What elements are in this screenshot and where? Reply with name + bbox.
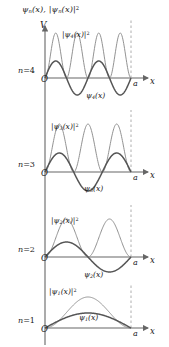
level-label-n4: n=4 bbox=[18, 66, 35, 75]
figure-axis-title: ψn(x), |ψn(x)|2 bbox=[22, 4, 79, 14]
wavefunction-figure: ψn(x), |ψn(x)|2 V n=4 O |ψ4(x)|2 ψ4(x) a… bbox=[0, 0, 169, 347]
origin-label-n4: O bbox=[41, 74, 48, 84]
well-width-label-n4: a bbox=[133, 79, 138, 88]
level-label-n3: n=3 bbox=[18, 160, 35, 169]
density-label-n3: |ψ3(x)|2 bbox=[51, 122, 79, 131]
psi-label-n2: ψ2(x) bbox=[84, 270, 103, 279]
psi-label-n1: ψ1(x) bbox=[79, 313, 98, 322]
psi-label-n4: ψ4(x) bbox=[86, 91, 105, 100]
origin-label-n1: O bbox=[41, 324, 48, 334]
origin-label-n3: O bbox=[41, 168, 48, 178]
density-curve-n3 bbox=[45, 124, 131, 172]
well-width-label-n2: a bbox=[133, 258, 138, 267]
well-width-label-n1: a bbox=[133, 329, 138, 338]
level-label-n2: n=2 bbox=[18, 245, 35, 254]
level-label-n1: n=1 bbox=[18, 316, 35, 325]
density-label-n4: |ψ4(x)|2 bbox=[62, 30, 90, 39]
psi-curve-n4 bbox=[45, 61, 131, 95]
x-axis-label-n2: x bbox=[150, 255, 155, 265]
x-axis-label-n4: x bbox=[150, 76, 155, 86]
density-label-n2: |ψ2(x)|2 bbox=[51, 216, 79, 225]
origin-label-n2: O bbox=[41, 253, 48, 263]
vertical-axis-label: V bbox=[40, 20, 47, 30]
x-axis-label-n3: x bbox=[150, 170, 155, 180]
density-label-n1: |ψ1(x)|2 bbox=[49, 287, 77, 296]
well-width-label-n3: a bbox=[133, 173, 138, 182]
psi-label-n3: ψ3(x) bbox=[84, 184, 103, 193]
psi-curve-n2 bbox=[45, 242, 131, 272]
x-axis-label-n1: x bbox=[150, 326, 155, 336]
plot-canvas bbox=[0, 0, 169, 347]
density-curve-n4 bbox=[45, 33, 131, 78]
